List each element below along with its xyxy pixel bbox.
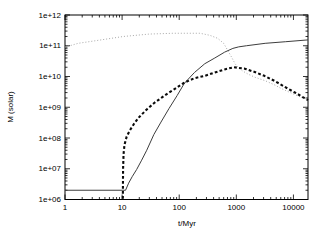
solid-line (65, 40, 308, 190)
x-tick-label: 10000 (282, 203, 305, 212)
y-tick-label: 1e+11 (39, 41, 61, 50)
y-tick-label: 1e+07 (39, 164, 62, 173)
plot-area: 1101001000100001e+061e+071e+081e+091e+10… (39, 11, 308, 212)
y-tick-label: 1e+06 (39, 195, 62, 204)
y-tick-label: 1e+08 (39, 134, 62, 143)
x-axis-title: t/Myr (178, 219, 196, 228)
y-tick-label: 1e+12 (39, 11, 62, 20)
thick-dashed-line (123, 67, 308, 199)
log-log-line-chart: 1101001000100001e+061e+071e+081e+091e+10… (0, 0, 326, 237)
x-tick-label: 10 (118, 203, 127, 212)
y-tick-label: 1e+10 (39, 72, 62, 81)
x-tick-label: 100 (173, 203, 187, 212)
chart-figure: 1101001000100001e+061e+071e+081e+091e+10… (0, 0, 326, 237)
x-tick-label: 1000 (227, 203, 245, 212)
y-axis-title: M (solar) (6, 91, 15, 123)
x-tick-label: 1 (63, 203, 68, 212)
y-tick-label: 1e+09 (39, 103, 62, 112)
